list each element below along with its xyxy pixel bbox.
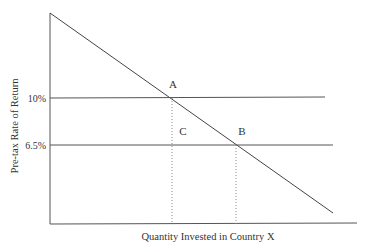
- point-label-b: B: [238, 125, 245, 137]
- tick-label-10: 10%: [28, 93, 46, 104]
- point-label-c: C: [179, 125, 186, 137]
- investment-diagram: 10% 6.5% A B C Pre-tax Rate of Return Qu…: [0, 0, 368, 248]
- demand-curve: [50, 13, 333, 213]
- point-label-a: A: [169, 78, 177, 90]
- x-axis: [50, 223, 357, 224]
- y-axis-title: Pre-tax Rate of Return: [9, 78, 20, 174]
- tick-label-6-5: 6.5%: [25, 140, 46, 151]
- x-axis-title: Quantity Invested in Country X: [142, 231, 275, 242]
- rate-line-10: [50, 97, 325, 98]
